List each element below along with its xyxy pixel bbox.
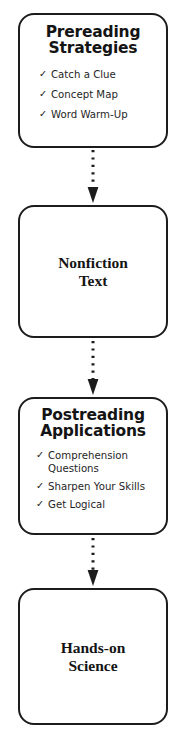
check-icon: ✓ [39,68,51,81]
arrowhead-icon [88,379,99,395]
list-item-label: Catch a Clue [51,68,169,81]
list-item: ✓ Concept Map [39,88,169,101]
flow-node-title: Nonfiction Text [58,254,128,288]
flow-node-postreading-applications: Postreading Applications ✓ Comprehension… [18,397,168,535]
flow-node-title: Prereading Strategies [46,24,141,57]
list-item-label: Concept Map [51,88,169,101]
list-item: ✓ Get Logical [36,498,166,511]
arrowhead-icon [88,570,99,586]
flow-node-nonfiction-text: Nonfiction Text [18,205,168,338]
list-item-label: Sharpen Your Skills [48,480,166,493]
connector-prereading-to-nonfiction [0,148,186,205]
list-item: ✓ Word Warm-Up [39,108,169,121]
connector-postreading-to-handson [0,535,186,588]
list-item: ✓ Sharpen Your Skills [36,480,166,493]
checklist-prereading: ✓ Catch a Clue ✓ Concept Map ✓ Word Warm… [17,68,169,121]
check-icon: ✓ [36,449,48,462]
flow-node-prereading-strategies: Prereading Strategies ✓ Catch a Clue ✓ C… [18,13,168,148]
check-icon: ✓ [39,88,51,101]
arrowhead-icon [88,187,99,203]
check-icon: ✓ [36,480,48,493]
connector-nonfiction-to-postreading [0,338,186,397]
list-item: ✓ Comprehension Questions [36,449,166,475]
list-item-label: Word Warm-Up [51,108,169,121]
flow-node-hands-on-science: Hands-on Science [18,588,168,725]
flowchart-diagram: Prereading Strategies ✓ Catch a Clue ✓ C… [0,0,186,737]
list-item: ✓ Catch a Clue [39,68,169,81]
check-icon: ✓ [39,108,51,121]
check-icon: ✓ [36,498,48,511]
flow-node-title: Postreading Applications [40,407,146,440]
flow-node-title: Hands-on Science [61,639,126,673]
list-item-label: Get Logical [48,498,166,511]
checklist-postreading: ✓ Comprehension Questions ✓ Sharpen Your… [20,449,166,511]
list-item-label: Comprehension Questions [48,449,166,475]
